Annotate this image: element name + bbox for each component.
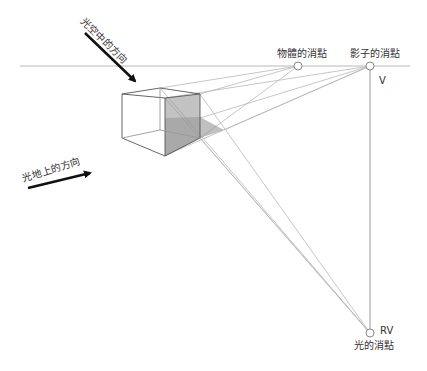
- shadow-vp-label: 影子的消點: [350, 49, 400, 59]
- light-vp-label: 光的消點: [354, 341, 394, 351]
- light-vp-marker: [366, 329, 374, 337]
- rv-label: RV: [380, 326, 393, 336]
- object-vp-marker: [294, 62, 302, 70]
- v-label: V: [379, 76, 386, 86]
- shadow-vp-marker: [366, 62, 374, 70]
- object-vp-label: 物體的消點: [277, 49, 327, 59]
